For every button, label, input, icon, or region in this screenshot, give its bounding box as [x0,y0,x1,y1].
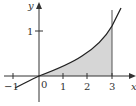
x-axis-label: x [131,81,136,92]
plot-canvas: −1 0 1 2 3 1 y x [0,0,136,106]
x-tick-label-1: 1 [60,81,66,92]
shaded-region [39,26,112,76]
y-axis-arrow-icon [36,2,42,9]
function-plot: −1 0 1 2 3 1 y x [0,0,136,106]
x-tick-label-3: 3 [109,81,115,92]
x-axis-arrow-icon [129,73,136,79]
x-tick-label-0: 0 [41,79,47,90]
y-tick-label-1: 1 [27,26,33,37]
x-tick-label-neg1: −1 [4,81,19,92]
x-tick-label-2: 2 [84,81,90,92]
y-axis-label: y [27,0,34,11]
